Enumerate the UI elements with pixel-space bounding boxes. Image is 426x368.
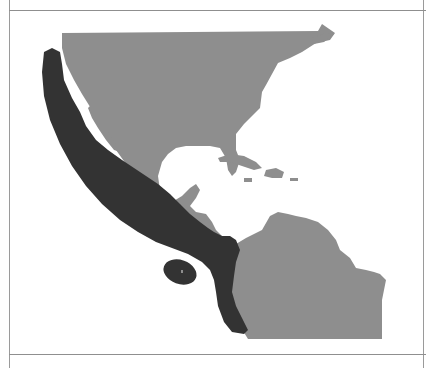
land-jamaica bbox=[244, 178, 252, 182]
land-puerto-rico bbox=[290, 178, 298, 181]
land-hispaniola bbox=[264, 168, 284, 178]
footer-divider bbox=[9, 354, 426, 355]
range-map bbox=[10, 11, 424, 354]
land-cuba bbox=[218, 154, 262, 170]
land-south-america bbox=[230, 212, 386, 339]
island-range bbox=[160, 255, 200, 289]
island-marker bbox=[181, 270, 183, 273]
